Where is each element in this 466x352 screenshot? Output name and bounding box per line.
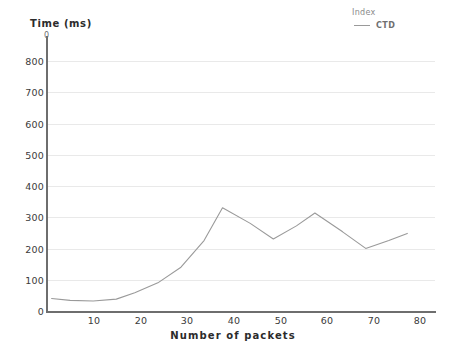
- series-layer: [0, 0, 466, 352]
- series-line-ctd: [52, 208, 408, 301]
- line-chart: Time (ms) 0 Index CTD 800 700 600 500 40…: [0, 0, 466, 352]
- x-axis-title: Number of packets: [0, 330, 466, 341]
